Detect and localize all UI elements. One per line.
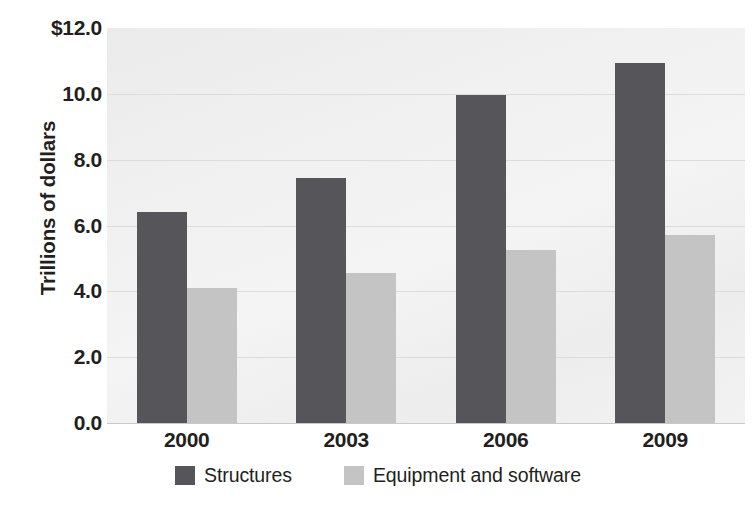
x-axis-tick-label: 2009 — [595, 428, 735, 452]
y-axis-tick-label: 10.0 — [2, 82, 102, 106]
y-axis-tick-label: 6.0 — [2, 214, 102, 238]
x-axis-tick-label: 2006 — [436, 428, 576, 452]
bar-structures-2006 — [456, 95, 506, 423]
y-axis-tick-label: 0.0 — [2, 411, 102, 435]
bar-equipment-2000 — [187, 288, 237, 423]
y-axis-tick-label: 2.0 — [2, 345, 102, 369]
bar-equipment-2006 — [506, 250, 556, 423]
x-axis-tick-label: 2003 — [276, 428, 416, 452]
legend-label: Equipment and software — [373, 464, 581, 487]
plot-area — [107, 28, 745, 423]
legend-item-structures[interactable]: Structures — [175, 464, 292, 487]
chart-legend: StructuresEquipment and software — [0, 464, 756, 487]
bar-structures-2009 — [615, 63, 665, 423]
y-axis-tick-label: $12.0 — [2, 16, 102, 40]
legend-item-equipment-and-software[interactable]: Equipment and software — [344, 464, 581, 487]
bar-equipment-2003 — [346, 273, 396, 423]
bar-structures-2000 — [137, 212, 187, 423]
y-axis-tick-label: 4.0 — [2, 279, 102, 303]
y-axis-tick-label: 8.0 — [2, 148, 102, 172]
legend-label: Structures — [204, 464, 292, 487]
legend-swatch-icon — [175, 466, 195, 485]
x-axis-tick-label: 2000 — [117, 428, 257, 452]
bar-equipment-2009 — [665, 235, 715, 423]
x-axis-baseline — [107, 423, 745, 424]
bar-structures-2003 — [296, 178, 346, 423]
y-axis-tick-labels: 0.02.04.06.08.010.0$12.0 — [0, 0, 102, 440]
bar-chart: Trillions of dollars 0.02.04.06.08.010.0… — [0, 0, 756, 508]
x-axis-tick-labels: 2000200320062009 — [107, 428, 745, 460]
legend-swatch-icon — [344, 466, 364, 485]
